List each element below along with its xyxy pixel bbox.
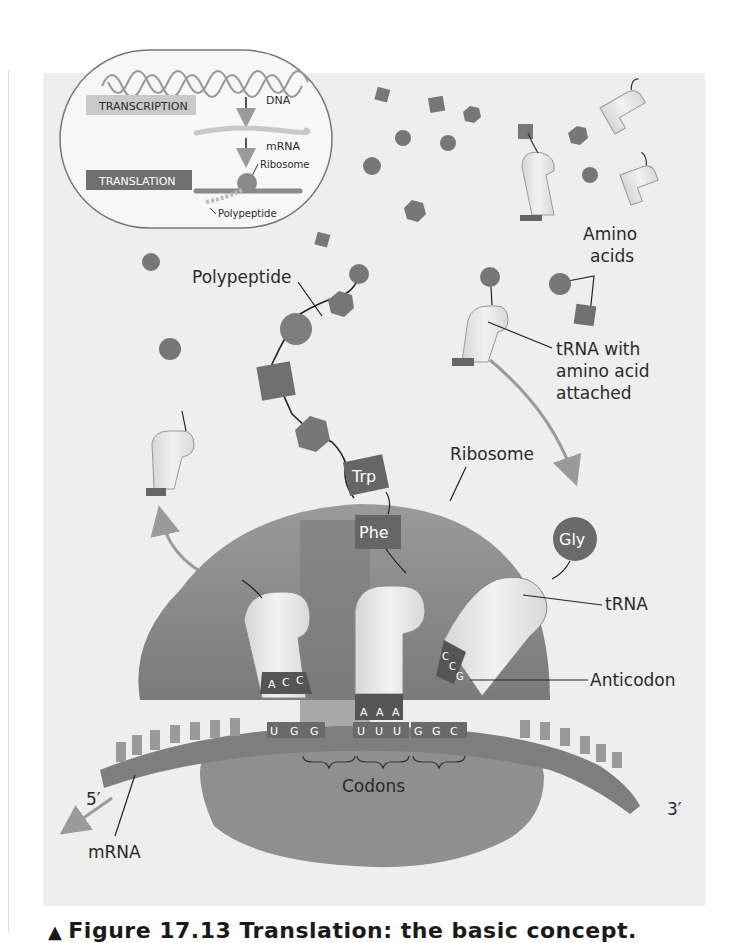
codon-base: G: [432, 725, 441, 738]
trp-tag: Trp: [343, 454, 389, 496]
transcription-label: TRANSCRIPTION: [98, 100, 188, 113]
amino-acid-square-icon: [574, 304, 597, 327]
caption-marker: ▲: [48, 921, 62, 942]
floating-trna: [615, 150, 663, 205]
gly-label: Gly: [559, 530, 585, 549]
amino-acid-square-icon: [518, 124, 533, 139]
codon-base: C: [450, 725, 458, 738]
anticodon-base: G: [456, 671, 464, 682]
trna-attached-label-line3: attached: [556, 383, 632, 403]
three-prime-label: 3′: [667, 799, 682, 819]
codon-base: U: [375, 725, 383, 738]
chain-amino-acid-circle-icon: [349, 264, 369, 284]
anticodon-base: A: [392, 706, 400, 719]
inset-dna-label: DNA: [266, 94, 291, 107]
chain-amino-acid-square-icon: [256, 361, 295, 400]
amino-acid-circle-icon: [395, 130, 411, 146]
trna-attached-label-line1: tRNA with: [556, 339, 640, 359]
anticodon-base: C: [449, 661, 456, 672]
anticodon-base: A: [360, 706, 368, 719]
ribosome-label: Ribosome: [450, 444, 534, 464]
translation-label: TRANSLATION: [98, 175, 176, 188]
amino-acid-circle-icon: [363, 157, 381, 175]
amino-acid-circle-icon: [549, 273, 571, 295]
anticodon-base: C: [442, 651, 449, 662]
amino-acids-label-line1: Amino: [583, 224, 637, 244]
phe-label: Phe: [359, 523, 389, 542]
amino-acid-hexagon-icon: [404, 200, 426, 222]
floating-trna: [596, 78, 656, 134]
codon-base: U: [270, 725, 278, 738]
codon-base: U: [357, 725, 365, 738]
chain-amino-acid-circle-icon: [280, 313, 312, 345]
overview-inset: TRANSCRIPTION DNA mRNA Ribosome TRANSLAT…: [60, 50, 332, 228]
codon-base: G: [310, 725, 319, 738]
caption-text: Figure 17.13 Translation: the basic conc…: [68, 918, 636, 943]
inset-polypeptide-label: Polypeptide: [218, 208, 277, 219]
phe-tag: Phe: [355, 515, 401, 549]
trna-label: tRNA: [605, 594, 648, 614]
amino-acid-circle-icon: [159, 338, 181, 360]
codon-base: G: [290, 725, 299, 738]
trna-attached-label-line2: amino acid: [556, 361, 650, 381]
amino-acid-square-icon: [314, 232, 330, 248]
anticodon-label: Anticodon: [590, 670, 676, 690]
inset-ribosome-label: Ribosome: [260, 159, 309, 170]
figure-caption: ▲Figure 17.13 Translation: the basic con…: [48, 918, 637, 943]
inset-mrna-label: mRNA: [266, 140, 301, 153]
amino-acid-circle-icon: [440, 135, 456, 151]
floating-trna-with-amino-acid: [520, 133, 554, 221]
anticodon-base: A: [268, 678, 276, 691]
amino-acid-circle-icon: [142, 253, 160, 271]
codon-base: U: [393, 725, 401, 738]
polypeptide-chain: Polypeptide: [192, 264, 369, 498]
amino-acids-label-line2: acids: [590, 246, 634, 266]
amino-acid-hexagon-icon: [568, 126, 588, 145]
codons-label: Codons: [342, 776, 405, 796]
floating-trna-group: [520, 78, 663, 221]
amino-acid-circle-icon: [582, 167, 598, 183]
exiting-trna: [146, 411, 194, 496]
codon-base: G: [414, 725, 423, 738]
anticodon-base: C: [282, 676, 290, 689]
gly-tag: Gly: [553, 517, 597, 561]
polypeptide-label: Polypeptide: [192, 267, 292, 287]
amino-acid-hexagon-icon: [463, 106, 481, 123]
anticodon-base: A: [376, 706, 384, 719]
trp-label: Trp: [351, 467, 376, 486]
chain-amino-acid-hexagon-icon: [328, 291, 354, 317]
anticodon-base: C: [296, 674, 304, 687]
amino-acid-square-icon: [374, 87, 390, 103]
trna-with-amino-acid: [452, 267, 552, 366]
mrna-label: mRNA: [88, 842, 141, 862]
amino-acid-square-icon: [428, 96, 445, 113]
